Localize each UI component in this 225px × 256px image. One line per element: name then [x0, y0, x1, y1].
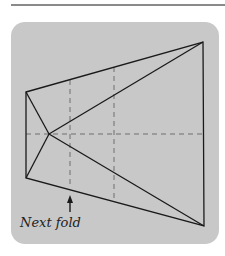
up-arrow-icon: [67, 195, 73, 212]
paper-outline: [26, 42, 204, 226]
crease-to-bottom-right: [49, 134, 204, 226]
crease-bottom-left: [26, 134, 49, 178]
dashed-fold-lines: [26, 67, 203, 200]
crease-top-left: [26, 92, 49, 134]
crease-to-top-right: [49, 42, 203, 134]
next-fold-label: Next fold: [20, 215, 81, 230]
outer-quadrilateral: [26, 42, 204, 226]
